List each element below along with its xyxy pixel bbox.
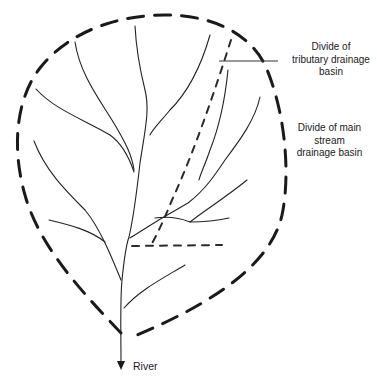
- tributary-lower-branch-b: [190, 180, 247, 222]
- main-divide-label-line2: stream: [282, 135, 377, 148]
- tributary-lower-branch-a: [155, 217, 229, 222]
- main-stream-divide: [17, 15, 286, 335]
- main-divide-label: Divide of main stream drainage basin: [282, 122, 377, 160]
- tributary-upper-right: [150, 35, 210, 135]
- river-arrow-icon: [117, 361, 125, 370]
- main-divide-label-line3: drainage basin: [282, 147, 377, 160]
- main-divide-label-line1: Divide of main: [282, 122, 377, 135]
- tributary-left-lower-a: [34, 141, 121, 280]
- tributary-divide-label-line3: basin: [285, 66, 377, 79]
- river-label: River: [133, 360, 158, 373]
- main-stream: [121, 26, 147, 366]
- tributary-lower-right: [124, 265, 185, 308]
- tributary-basin-divide-bottom: [132, 245, 222, 246]
- tributary-divide-label-line2: tributary drainage: [285, 54, 377, 67]
- tributary-divide-label: Divide of tributary drainage basin: [285, 41, 377, 79]
- tributary-divide-label-line1: Divide of: [285, 41, 377, 54]
- tributary-stream: [130, 97, 260, 238]
- tributary-left-middle: [36, 89, 134, 172]
- tributary-left-upper: [75, 42, 134, 170]
- tributary-basin-divide: [150, 40, 231, 247]
- tributary-left-lower-b: [49, 220, 105, 242]
